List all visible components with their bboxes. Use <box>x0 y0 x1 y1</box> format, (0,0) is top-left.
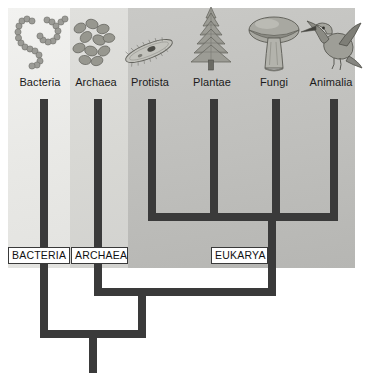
branch-bacteria-stem <box>40 99 48 334</box>
animal-hummingbird-icon <box>298 8 364 72</box>
branch-root-stem <box>89 330 97 373</box>
bacteria-chain-icon <box>8 8 72 72</box>
fungus-mushroom-icon <box>244 8 304 72</box>
taxon-label-fungi: Fungi <box>246 76 302 88</box>
branch-archaea-eukarya-stem <box>138 288 146 334</box>
domain-box-eukarya[interactable]: EUKARYA <box>211 247 268 264</box>
taxon-label-bacteria: Bacteria <box>10 76 70 88</box>
branch-protista-stem <box>148 99 156 221</box>
branch-animalia-stem <box>330 99 338 221</box>
branch-plantae-stem <box>210 99 218 221</box>
plant-conifer-icon <box>180 8 242 72</box>
branch-fungi-stem <box>272 99 280 221</box>
taxon-label-protista: Protista <box>120 76 180 88</box>
phylogenetic-tree-figure: Bacteria Archaea Protista Plantae Fungi … <box>0 0 368 373</box>
taxon-label-plantae: Plantae <box>182 76 242 88</box>
branch-archaea-stem <box>94 99 102 296</box>
domain-box-bacteria[interactable]: BACTERIA <box>8 247 70 264</box>
protist-paramecium-icon <box>118 8 180 72</box>
domain-box-archaea[interactable]: ARCHAEA <box>71 247 128 264</box>
taxon-label-animalia: Animalia <box>300 76 362 88</box>
branch-archaea-eukarya-crossbar <box>94 288 276 296</box>
branch-eukarya-stem <box>268 213 276 296</box>
archaea-cocci-icon <box>64 8 126 72</box>
branch-eukarya-crossbar <box>148 213 338 221</box>
taxon-label-archaea: Archaea <box>66 76 126 88</box>
